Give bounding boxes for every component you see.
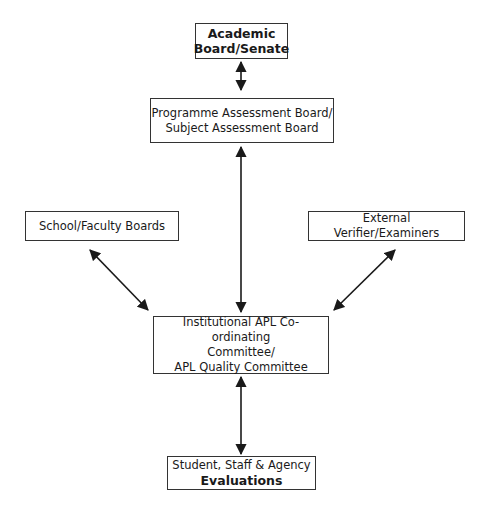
institutional-apl-box: Institutional APL Co-ordinating Committe… bbox=[153, 316, 329, 374]
arrow-external-institutional bbox=[334, 250, 395, 310]
external-verifier-box: External Verifier/Examiners bbox=[308, 211, 465, 241]
academic-board-line1: Academic bbox=[208, 26, 276, 41]
connector-arrows bbox=[0, 0, 490, 513]
institutional-apl-line1: Institutional APL Co-ordinating bbox=[154, 315, 328, 345]
programme-board-box: Programme Assessment Board/ Subject Asse… bbox=[150, 98, 334, 143]
institutional-apl-line2: Committee/ bbox=[207, 345, 275, 360]
academic-board-box: Academic Board/Senate bbox=[195, 23, 288, 59]
evaluations-box: Student, Staff & Agency Evaluations bbox=[167, 456, 316, 490]
academic-board-line2: Board/Senate bbox=[194, 41, 290, 56]
school-faculty-box: School/Faculty Boards bbox=[25, 211, 179, 241]
school-faculty-label: School/Faculty Boards bbox=[39, 219, 165, 234]
external-verifier-label: External Verifier/Examiners bbox=[309, 211, 464, 241]
institutional-apl-line3: APL Quality Committee bbox=[174, 360, 307, 375]
arrow-school-institutional bbox=[90, 250, 148, 310]
programme-board-line1: Programme Assessment Board/ bbox=[152, 106, 333, 121]
evaluations-line2: Evaluations bbox=[201, 473, 283, 488]
evaluations-line1: Student, Staff & Agency bbox=[172, 458, 310, 473]
programme-board-line2: Subject Assessment Board bbox=[165, 121, 318, 136]
